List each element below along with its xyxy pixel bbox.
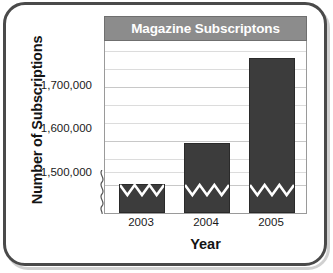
gridline bbox=[105, 51, 306, 52]
chart-title: Magazine Subscriptons bbox=[104, 16, 307, 41]
bar-2004[interactable] bbox=[184, 143, 230, 213]
x-axis-tick-labels: 2003 2004 2005 bbox=[104, 216, 307, 234]
x-tick-label: 2004 bbox=[177, 216, 235, 228]
y-tick-label: 1,700,000 bbox=[26, 79, 92, 91]
x-tick-label: 2003 bbox=[112, 216, 170, 228]
x-axis-title: Year bbox=[104, 236, 307, 252]
plot-area bbox=[104, 41, 307, 214]
chart-container: Magazine Subscriptons bbox=[104, 16, 307, 214]
worksheet-page: Number of Subscriptions 1,700,000 1,600,… bbox=[0, 0, 333, 273]
y-tick-label: 1,500,000 bbox=[26, 166, 92, 178]
bar-break-icon bbox=[120, 182, 164, 198]
bar-break-icon bbox=[250, 182, 294, 198]
y-tick-label: 1,600,000 bbox=[26, 122, 92, 134]
bar-break-icon bbox=[185, 182, 229, 198]
bar-2005[interactable] bbox=[249, 58, 295, 213]
bar-2003[interactable] bbox=[119, 184, 165, 213]
x-tick-label: 2005 bbox=[242, 216, 300, 228]
y-axis-tick-labels: 1,700,000 1,600,000 1,500,000 bbox=[30, 0, 92, 273]
